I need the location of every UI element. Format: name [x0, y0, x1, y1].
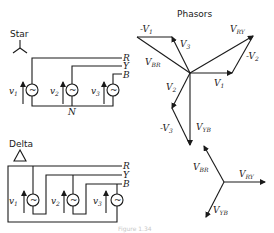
ac-source-icon: ~: [29, 85, 37, 95]
delta-source-3: ~ v3: [93, 191, 123, 213]
ac-source-icon: ~: [69, 85, 77, 95]
phasor-v-ry: [190, 36, 253, 73]
star-source-3: ~ v3: [91, 82, 119, 104]
star-v3-label: v3: [91, 86, 100, 97]
delta-label: Delta: [9, 139, 33, 149]
star-neutral-label: N: [67, 107, 77, 117]
delta-line-r: [8, 166, 122, 222]
phasor-v1-label: V1: [214, 78, 224, 89]
three-phase-diagram: Star R Y B ~ v1 ~ v2 ~ v3: [0, 0, 274, 233]
phasor-neg-v3-label: -V3: [160, 123, 173, 134]
star-line-y: [72, 66, 122, 84]
line-phasor-v-br: [204, 146, 224, 182]
figure-caption: Figure 1.34: [118, 225, 152, 233]
phasor-neg-v1-label: -V1: [140, 24, 153, 35]
delta-symbol-icon: [14, 150, 26, 161]
delta-source-2: ~ v2: [51, 191, 79, 213]
phasor-v3-label: V3: [180, 39, 191, 50]
ac-source-icon: ~: [110, 85, 118, 95]
star-source-2: ~ v2: [50, 82, 78, 104]
line-phasor-v-yb-label: VYB: [213, 205, 228, 216]
phasor-diagram-line: VRY VBR VYB: [193, 146, 265, 217]
star-v1-label: v1: [9, 86, 18, 97]
delta-b-label: B: [122, 179, 130, 189]
star-b-label: B: [122, 70, 130, 80]
star-circuit: Star R Y B ~ v1 ~ v2 ~ v3: [9, 29, 130, 117]
phasor-v-yb-label: VYB: [196, 122, 211, 133]
line-phasor-v-ry-label: VRY: [239, 169, 255, 180]
ac-source-icon: ~: [30, 195, 38, 205]
phasor-v-ry-label: VRY: [230, 24, 246, 35]
phasor-v-br-label: VBR: [145, 57, 161, 68]
phasor-neg-v2-label: -V2: [246, 51, 259, 62]
star-line-r: [32, 58, 122, 84]
phasor-v2-label: V2: [166, 82, 177, 93]
delta-v1-label: v1: [9, 196, 18, 207]
phasor-diagram-star: Phasors V1 -V2 VRY V3 -V1 VBR V2 -V3 VYB: [137, 9, 259, 145]
star-line-b: [113, 74, 122, 84]
ac-source-icon: ~: [114, 195, 122, 205]
delta-v2-label: v2: [51, 196, 60, 207]
phasor-neg-v3: [172, 108, 190, 145]
star-label: Star: [10, 29, 29, 39]
delta-source-1: ~ v1: [9, 191, 39, 213]
star-source-1: ~ v1: [9, 82, 38, 104]
ac-source-icon: ~: [70, 195, 78, 205]
star-symbol-icon: [13, 40, 27, 53]
delta-v3-label: v3: [93, 196, 102, 207]
delta-circuit: Delta R Y B ~ v1 ~ v2 ~ v3: [8, 139, 130, 222]
phasors-title: Phasors: [177, 9, 213, 19]
star-v2-label: v2: [50, 86, 59, 97]
line-phasor-v-br-label: VBR: [193, 162, 209, 173]
